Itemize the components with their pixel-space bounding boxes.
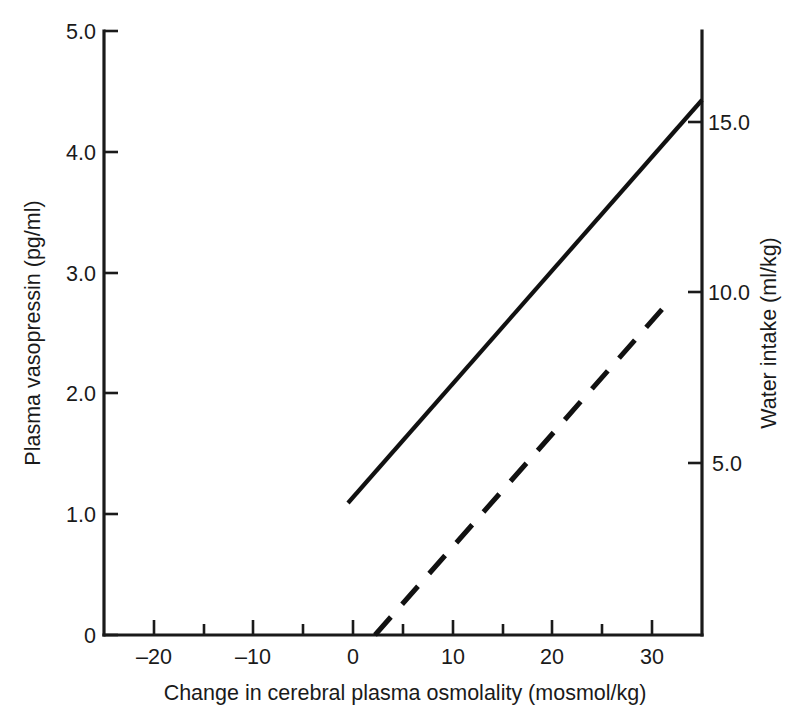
y-ticklabel-4: 4.0: [66, 141, 96, 165]
x-axis-title: Change in cerebral plasma osmolality (mo…: [164, 681, 647, 705]
chart-figure: 5.0 4.0 3.0 2.0 1.0 0 5.0 10.0 15.0: [0, 0, 803, 713]
x-ticklabel-30: 30: [640, 645, 664, 669]
y-ticklabel-3: 3.0: [66, 262, 96, 286]
y-axis-left-title: Plasma vasopressin (pg/ml): [21, 200, 45, 465]
y-ticklabel-2: 2.0: [66, 382, 96, 406]
y-axis-right-title: Water intake (ml/kg): [757, 237, 781, 429]
x-ticklabel-20: 20: [540, 645, 564, 669]
x-ticklabel-neg20: –20: [136, 645, 172, 669]
y-ticklabel-5: 5.0: [66, 20, 96, 44]
y-ticklabel-1: 1.0: [66, 503, 96, 527]
y2-ticklabel-10: 10.0: [708, 281, 750, 305]
chart-background: [0, 0, 803, 713]
chart-svg: 5.0 4.0 3.0 2.0 1.0 0 5.0 10.0 15.0: [0, 0, 803, 713]
x-ticklabel-0: 0: [347, 645, 359, 669]
x-ticklabel-neg10: –10: [235, 645, 271, 669]
y2-ticklabel-15: 15.0: [708, 111, 750, 135]
y2-ticklabel-5: 5.0: [712, 452, 742, 476]
y-ticklabel-0: 0: [84, 624, 96, 648]
x-ticklabel-10: 10: [441, 645, 465, 669]
